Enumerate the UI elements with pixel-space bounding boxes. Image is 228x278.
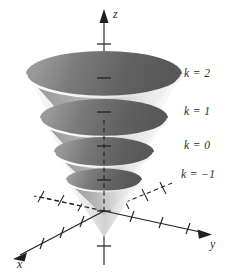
surface-label-k2: k = 2	[184, 68, 210, 80]
x-axis-label: x	[17, 258, 22, 270]
y-axis-positive	[104, 211, 205, 233]
y-axis-label: y	[210, 238, 215, 250]
surface-label-k0: k = 0	[184, 140, 210, 152]
z-axis-arrowhead	[100, 9, 109, 23]
cone-level-surfaces-figure: z x y k = 2 k = 1 k = 0 k = −1	[0, 0, 228, 278]
surface-label-k1: k = 1	[184, 106, 210, 118]
z-axis-label: z	[113, 8, 118, 20]
surface-label-km1: k = −1	[181, 169, 216, 181]
